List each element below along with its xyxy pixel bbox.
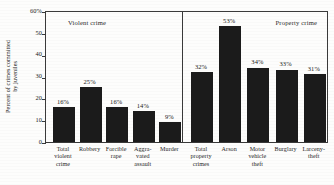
y-tick-mark (42, 143, 46, 144)
y-tick-mark (42, 34, 46, 35)
juvenile-crime-bar-chart: Percent of crimes committed by juveniles… (0, 0, 334, 185)
y-tick-label: 10 (18, 117, 42, 123)
y-tick-label: 50 (18, 30, 42, 36)
bar-value-label: 25% (73, 79, 107, 86)
panel-divider (182, 12, 183, 142)
panel-title-violent-crime: Violent crime (68, 19, 106, 26)
bar-value-label: 9% (152, 114, 186, 121)
y-tick-label: 60% (18, 8, 42, 14)
bar-property-crime-3 (276, 70, 298, 142)
bar-property-crime-2 (247, 68, 269, 142)
bar-value-label: 32% (184, 64, 218, 71)
bar-value-label: 16% (46, 99, 80, 106)
y-tick-mark (42, 121, 46, 122)
plot-area: Violent crime Property crime (45, 11, 328, 143)
bar-violent-crime-1 (80, 87, 102, 142)
bar-violent-crime-2 (106, 107, 128, 142)
y-tick-label: 30 (18, 73, 42, 79)
bar-property-crime-1 (219, 26, 241, 142)
y-tick-mark (42, 12, 46, 13)
bar-value-label: 14% (126, 103, 160, 110)
x-category-label: Larceny-theft (294, 146, 334, 161)
y-tick-label: 40 (18, 51, 42, 57)
y-axis-title-line-1: Percent of crimes committed (5, 40, 12, 113)
bar-property-crime-4 (304, 74, 326, 142)
bar-violent-crime-4 (159, 122, 181, 142)
bar-value-label: 31% (297, 66, 331, 73)
y-tick-label: 20 (18, 95, 42, 101)
y-tick-mark (42, 78, 46, 79)
bar-violent-crime-0 (53, 107, 75, 142)
y-axis-tick-labels: 60%50403020100 (18, 0, 42, 185)
y-tick-mark (42, 56, 46, 57)
y-tick-label: 0 (18, 139, 42, 145)
bar-property-crime-0 (191, 72, 213, 142)
bar-value-label: 53% (212, 18, 246, 25)
panel-title-property-crime: Property crime (276, 19, 317, 26)
